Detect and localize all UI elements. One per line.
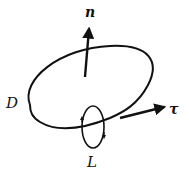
- label-domain: D: [5, 94, 18, 112]
- region-boundary: [28, 46, 152, 128]
- label-tangent: τ: [169, 101, 179, 117]
- loop-L: [82, 106, 104, 148]
- normal-vector-arrow: [85, 29, 89, 77]
- label-normal: n: [85, 4, 95, 20]
- label-loop: L: [86, 153, 97, 171]
- diagram-canvas: n τ D L: [0, 0, 189, 173]
